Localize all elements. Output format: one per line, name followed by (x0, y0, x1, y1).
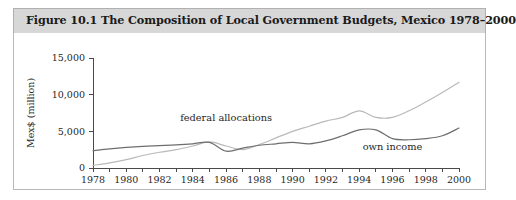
y-tick-label: 5,000 (58, 126, 85, 137)
x-tick-label: 1990 (281, 174, 305, 185)
figure-container: Figure 10.1 The Composition of Local Gov… (13, 8, 486, 190)
x-tick-label: 2000 (447, 174, 471, 185)
x-tick-label: 1988 (247, 174, 271, 185)
x-tick-label: 1992 (314, 174, 338, 185)
x-tick-label: 1980 (114, 174, 138, 185)
x-tick-label: 1994 (347, 174, 371, 185)
x-tick-label: 1986 (214, 174, 238, 185)
series-line-federal-allocations (93, 82, 459, 165)
y-tick-label: 15,000 (52, 52, 85, 63)
x-tick-label: 1982 (147, 174, 171, 185)
y-tick-label: 0 (79, 162, 85, 173)
x-tick-label: 1996 (380, 174, 404, 185)
x-axis: 1978198019821984198619881990199219941996… (81, 168, 471, 185)
y-axis-title: Mex$ (million) (25, 78, 36, 148)
line-chart: 05,00010,00015,000 197819801982198419861… (14, 33, 485, 188)
series-label-own-income: own income (363, 141, 423, 152)
figure-body: 05,00010,00015,000 197819801982198419861… (13, 33, 486, 190)
y-axis-title-group: Mex$ (million) (25, 78, 36, 148)
y-tick-label: 10,000 (52, 89, 85, 100)
figure-header-bar: Figure 10.1 The Composition of Local Gov… (13, 8, 486, 33)
y-axis: 05,00010,00015,000 (52, 52, 93, 173)
figure-title: Figure 10.1 The Composition of Local Gov… (26, 13, 516, 27)
x-tick-label: 1984 (181, 174, 205, 185)
x-tick-label: 1998 (414, 174, 438, 185)
chart-series-group (93, 82, 459, 165)
series-label-federal-allocations: federal allocations (180, 112, 272, 123)
x-tick-label: 1978 (81, 174, 105, 185)
